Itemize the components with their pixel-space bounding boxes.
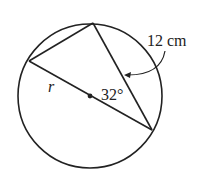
angle-label: 32°	[101, 86, 123, 103]
chord-length-label: 12 cm	[147, 32, 187, 49]
label-arrow	[128, 51, 165, 75]
chord-left	[29, 23, 93, 61]
radius-label: r	[48, 78, 55, 95]
arrowhead-icon	[124, 72, 131, 78]
center-point	[88, 94, 93, 99]
circle-diagram: 12 cm r 32°	[0, 0, 197, 180]
